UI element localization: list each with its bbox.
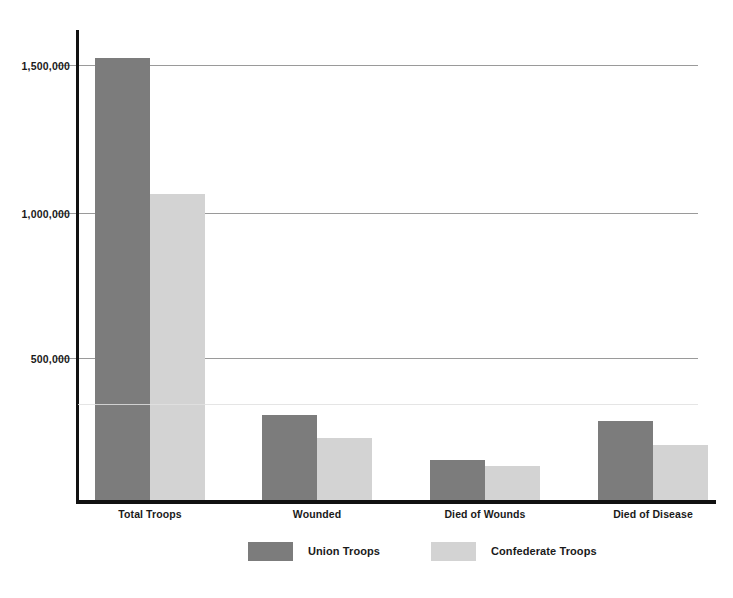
bar-union-died-of-wounds[interactable]: [430, 460, 485, 500]
bar-group-died-of-disease: [598, 30, 708, 500]
legend-entry-confederate[interactable]: Confederate Troops: [431, 540, 597, 562]
y-tick-label-1500000: 1,500,000: [21, 60, 70, 72]
x-axis-line: [76, 500, 716, 504]
bar-union-wounded[interactable]: [262, 415, 317, 500]
bar-group-total-troops: [95, 30, 205, 500]
bars-layer: [78, 30, 718, 500]
bar-union-total-troops[interactable]: [95, 58, 150, 500]
y-axis-labels: 1,500,000 1,000,000 500,000: [0, 0, 70, 598]
bar-group-wounded: [262, 30, 372, 500]
x-tick-label-wounded: Wounded: [262, 508, 372, 520]
bar-union-died-of-disease[interactable]: [598, 421, 653, 500]
bar-confederate-died-of-wounds[interactable]: [485, 466, 540, 500]
x-tick-label-died-of-wounds: Died of Wounds: [430, 508, 540, 520]
bar-group-died-of-wounds: [430, 30, 540, 500]
chart-legend: Union Troops Confederate Troops: [0, 540, 733, 566]
bar-confederate-died-of-disease[interactable]: [653, 445, 708, 500]
bar-chart: 1,500,000 1,000,000 500,000 Total Troops…: [0, 0, 733, 598]
faint-band-line: [78, 404, 698, 405]
x-axis-labels: Total Troops Wounded Died of Wounds Died…: [78, 508, 718, 528]
legend-swatch-confederate-icon: [431, 542, 476, 561]
y-tick-label-1000000: 1,000,000: [21, 208, 70, 220]
bar-confederate-wounded[interactable]: [317, 438, 372, 500]
legend-entry-union[interactable]: Union Troops: [248, 540, 380, 562]
x-tick-label-total-troops: Total Troops: [95, 508, 205, 520]
legend-label-union: Union Troops: [308, 545, 380, 557]
legend-label-confederate: Confederate Troops: [491, 545, 597, 557]
bar-confederate-total-troops[interactable]: [150, 194, 205, 500]
legend-swatch-union-icon: [248, 542, 293, 561]
x-tick-label-died-of-disease: Died of Disease: [598, 508, 708, 520]
y-tick-label-500000: 500,000: [31, 353, 70, 365]
